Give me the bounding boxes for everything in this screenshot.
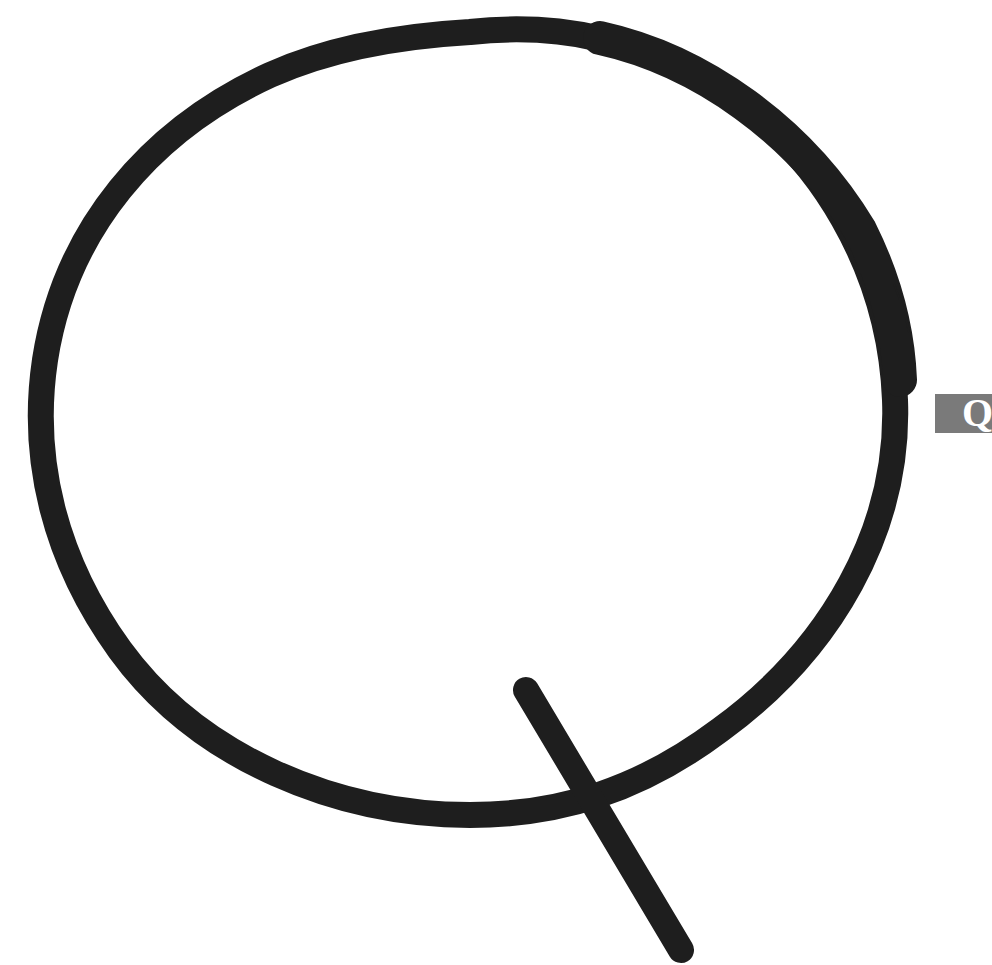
q-ring-heavy-section: [600, 38, 900, 380]
q-ring: [41, 29, 895, 815]
brush-q-artwork: [0, 0, 992, 965]
side-tab[interactable]: Q: [935, 394, 992, 433]
side-tab-label: Q: [962, 394, 992, 433]
